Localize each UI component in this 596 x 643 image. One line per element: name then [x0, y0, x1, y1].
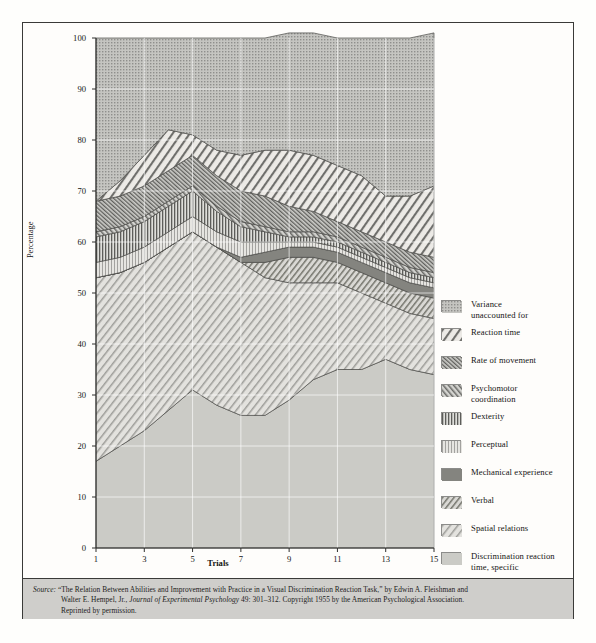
y-tick-label-70: 70	[60, 186, 86, 196]
y-tick-marks	[92, 38, 96, 548]
legend-item[interactable]: Rate of movement	[441, 355, 581, 379]
y-tick-label-0: 0	[60, 543, 86, 553]
legend-swatch-icon	[441, 496, 461, 508]
legend-item-label: Psychomotorcoordination	[471, 383, 581, 404]
legend-item[interactable]: Mechanical experience	[441, 467, 581, 491]
legend-swatch-icon	[441, 384, 461, 396]
legend-item-label: Perceptual	[471, 439, 581, 450]
source-line-3: Reprinted by permission.	[33, 606, 563, 616]
source-text-2a: Walter E. Hempel, Jr.,	[61, 595, 129, 604]
stacked-bands	[96, 33, 434, 548]
legend-item-label: Rate of movement	[471, 355, 581, 366]
y-tick-label-10: 10	[60, 492, 86, 502]
legend-item-label: Dexterity	[471, 411, 581, 422]
y-axis-title: Percentage	[26, 222, 35, 258]
legend-item-label: Mechanical experience	[471, 467, 581, 478]
legend-swatch-icon	[441, 468, 461, 480]
source-line-2: Walter E. Hempel, Jr., Journal of Experi…	[33, 595, 563, 605]
x-axis-title: Trials	[0, 558, 436, 568]
y-tick-label-100: 100	[60, 33, 86, 43]
y-tick-label-50: 50	[60, 288, 86, 298]
source-journal: Journal of Experimental Psychology	[129, 595, 239, 604]
y-tick-label-80: 80	[60, 135, 86, 145]
legend-item[interactable]: Psychomotorcoordination	[441, 383, 581, 407]
legend-swatch-icon	[441, 328, 461, 340]
legend-swatch-icon	[441, 524, 461, 536]
source-text-1: “The Relation Between Abilities and Impr…	[58, 585, 468, 594]
legend-swatch-icon	[441, 440, 461, 452]
source-label: Source:	[33, 585, 56, 594]
legend-item-label: Verbal	[471, 495, 581, 506]
legend-item[interactable]: Reaction time	[441, 327, 581, 351]
legend-item[interactable]: Varianceunaccounted for	[441, 299, 581, 323]
y-tick-label-60: 60	[60, 237, 86, 247]
legend-item[interactable]: Perceptual	[441, 439, 581, 463]
legend-item-label: Discrimination reactiontime, specific	[471, 551, 581, 572]
figure-page: 0102030405060708090100 13579111315 Perce…	[0, 0, 596, 643]
legend-item-label: Reaction time	[471, 327, 581, 338]
legend-swatch-icon	[441, 412, 461, 424]
y-tick-label-40: 40	[60, 339, 86, 349]
chart-legend: Varianceunaccounted forReaction timeRate…	[441, 299, 581, 579]
y-tick-label-90: 90	[60, 84, 86, 94]
x-tick-marks	[96, 548, 434, 552]
legend-item[interactable]: Discrimination reactiontime, specific	[441, 551, 581, 575]
legend-item[interactable]: Dexterity	[441, 411, 581, 435]
legend-swatch-icon	[441, 356, 461, 368]
legend-item-label: Spatial relations	[471, 523, 581, 534]
y-tick-label-30: 30	[60, 390, 86, 400]
legend-swatch-icon	[441, 300, 461, 312]
legend-item-label: Varianceunaccounted for	[471, 299, 581, 320]
legend-swatch-icon	[441, 552, 461, 564]
legend-item[interactable]: Verbal	[441, 495, 581, 519]
source-note: Source: “The Relation Between Abilities …	[23, 579, 573, 619]
source-text-2b: 49: 301–312. Copyright 1955 by the Ameri…	[239, 595, 464, 604]
y-tick-label-20: 20	[60, 441, 86, 451]
legend-item[interactable]: Spatial relations	[441, 523, 581, 547]
source-line-1: Source: “The Relation Between Abilities …	[33, 585, 563, 595]
